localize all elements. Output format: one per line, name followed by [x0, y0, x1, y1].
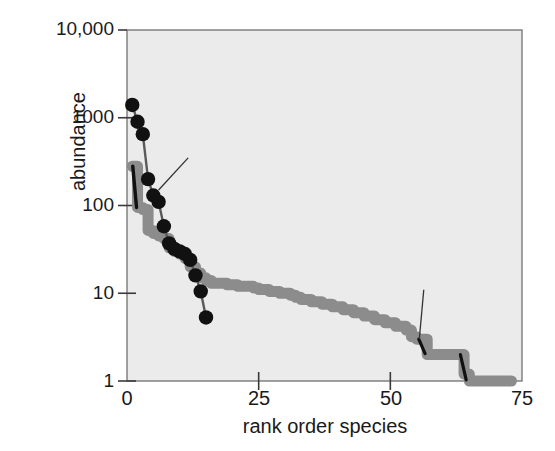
- figure: abundance 10,000 1000 100 10 1 0 25 50 7…: [0, 0, 555, 451]
- plot-canvas: [0, 0, 555, 451]
- plot-panel-background: [127, 30, 522, 381]
